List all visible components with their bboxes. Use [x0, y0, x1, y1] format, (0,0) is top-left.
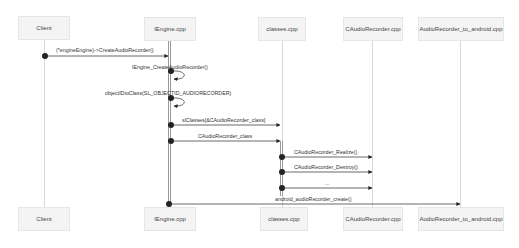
message-5-label: CAudioRecorder_class	[198, 133, 252, 139]
message-6-dot	[279, 154, 285, 160]
message-7-dot	[279, 169, 285, 175]
message-1-label: (*engineEngine)->CreateAudioRecorder()	[56, 47, 154, 53]
message-8-label: ...	[325, 180, 329, 186]
message-arrows	[0, 0, 519, 248]
message-7-label: CAudioRecorder_Destroy()	[294, 164, 358, 170]
message-3-label: objectIDtoClass(SL_OBJECTID_AUDIORECORDE…	[105, 90, 231, 96]
message-2-label: IEngine_CreateAudioRecorder()	[132, 64, 208, 70]
message-4-label: slClasses[&CAudioRecorder_class]	[182, 117, 265, 123]
message-8-dot	[279, 185, 285, 191]
message-4-dot	[168, 122, 174, 128]
message-5-dot	[168, 138, 174, 144]
message-9-dot	[166, 201, 172, 207]
message-1-dot	[42, 53, 48, 59]
message-6-label: CAudioRecorder_Realize()	[294, 149, 357, 155]
message-9-label: android_audioRecorder_create()	[275, 196, 352, 202]
